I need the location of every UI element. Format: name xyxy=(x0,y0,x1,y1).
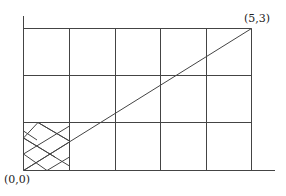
corner-label: (5,3) xyxy=(244,12,270,25)
grid-diagram xyxy=(0,0,286,196)
origin-label: (0,0) xyxy=(4,173,30,186)
hatched-cell xyxy=(24,123,70,171)
